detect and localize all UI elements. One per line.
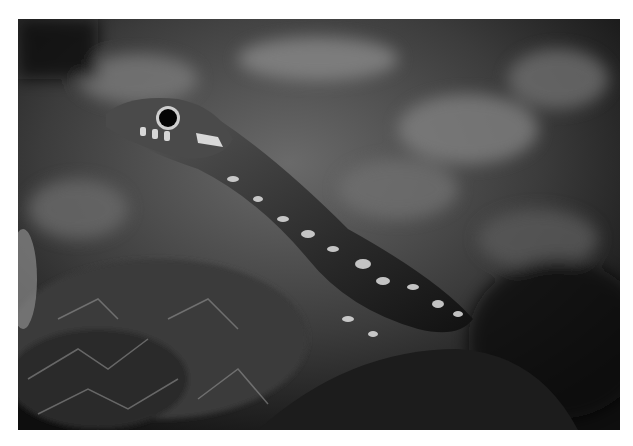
snake-photo	[18, 19, 620, 430]
photo-illustration	[18, 19, 620, 430]
snake-pupil	[159, 109, 177, 127]
